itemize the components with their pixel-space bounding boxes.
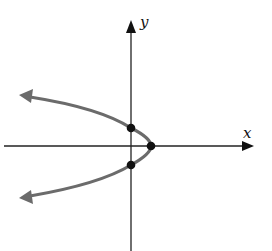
x-axis-arrow-icon bbox=[242, 141, 254, 151]
graph-canvas bbox=[0, 0, 272, 251]
y-axis-arrow-icon bbox=[126, 20, 136, 33]
curve-arrow-upper-icon bbox=[19, 89, 33, 103]
x-axis-label: x bbox=[243, 124, 251, 142]
curve-arrow-lower-icon bbox=[19, 190, 33, 204]
point-vertex bbox=[147, 142, 156, 151]
point-y-intercept-top bbox=[127, 124, 136, 133]
y-axis-label: y bbox=[140, 13, 148, 31]
point-y-intercept-bottom bbox=[127, 161, 136, 170]
